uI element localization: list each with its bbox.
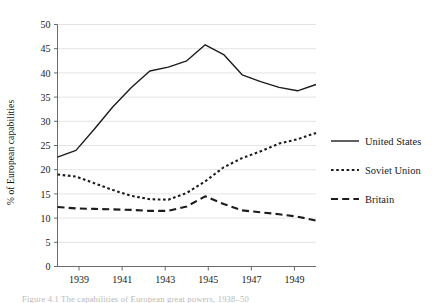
y-tick-label: 25	[41, 140, 51, 151]
figure-container: % of European capabilities 0510152025303…	[0, 0, 441, 303]
line-chart: 05101520253035404550 1939194119431945194…	[0, 0, 441, 303]
x-tick-label: 1947	[241, 274, 261, 285]
y-tick-label: 30	[41, 116, 51, 127]
y-tick-label: 50	[41, 19, 51, 30]
y-axis-ticks-group: 05101520253035404550	[41, 19, 58, 272]
x-tick-label: 1943	[155, 274, 175, 285]
x-tick-label: 1941	[112, 274, 132, 285]
y-tick-label: 35	[41, 92, 51, 103]
y-tick-label: 45	[41, 43, 51, 54]
series-line-britain	[58, 196, 317, 220]
y-tick-label: 5	[46, 237, 51, 248]
y-tick-label: 10	[41, 213, 51, 224]
x-tick-label: 1949	[284, 274, 304, 285]
figure-caption: Figure 4.1 The capabilities of European …	[22, 294, 249, 303]
legend-label-britain: Britain	[365, 194, 395, 205]
y-tick-label: 15	[41, 189, 51, 200]
y-tick-label: 40	[41, 68, 51, 79]
legend-label-united-states: United States	[365, 136, 421, 147]
series-line-soviet-union	[58, 133, 317, 200]
series-line-united-states	[58, 45, 317, 157]
legend-label-soviet-union: Soviet Union	[365, 165, 421, 176]
chart-legend: United StatesSoviet UnionBritain	[331, 136, 421, 205]
y-tick-label: 0	[46, 261, 51, 272]
x-axis-ticks-group: 193919411943194519471949	[69, 267, 304, 285]
y-tick-label: 20	[41, 164, 51, 175]
x-tick-label: 1939	[69, 274, 89, 285]
x-tick-label: 1945	[198, 274, 218, 285]
